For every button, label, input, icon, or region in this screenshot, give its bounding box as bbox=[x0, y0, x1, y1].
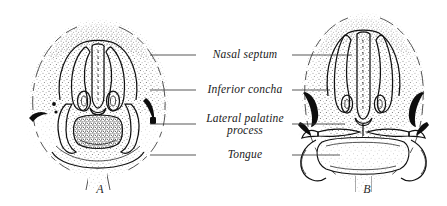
panel-b-letter: B bbox=[363, 182, 371, 196]
panel-a-letter: A bbox=[95, 182, 104, 196]
label-text-lateral-palatine-process-line2: process bbox=[226, 124, 263, 137]
label-text-nasal-septum: Nasal septum bbox=[212, 48, 278, 61]
label-text-tongue: Tongue bbox=[228, 148, 263, 161]
tongue-b bbox=[317, 138, 409, 175]
label-text-inferior-concha: Inferior concha bbox=[207, 83, 283, 96]
figure-container: A bbox=[0, 0, 447, 206]
tongue-a bbox=[74, 115, 123, 149]
palate-development-figure: A bbox=[0, 0, 447, 206]
